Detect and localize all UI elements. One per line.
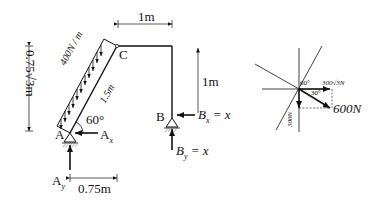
angle-60-label: 60° <box>300 80 310 87</box>
vertical-component-label: 300N <box>287 112 294 127</box>
Bx-label: Bx = x <box>198 108 231 125</box>
Ay-label: Ay <box>52 174 65 191</box>
By-label: By = x <box>176 144 209 161</box>
horizontal-component-label: 300√3N <box>322 80 345 87</box>
dimension-right-label: 1m <box>202 75 219 88</box>
point-C-label: C <box>119 48 128 61</box>
resultant-label: 600N <box>333 102 361 115</box>
dimension-left-label: 0.75√3m <box>24 50 37 97</box>
angle-A-label: 60° <box>86 113 104 126</box>
dimension-top-label: 1m <box>138 10 155 23</box>
Ax-label: Ax <box>100 128 113 145</box>
point-B-label: B <box>156 110 165 123</box>
dimension-bottom-label: 0.75m <box>78 182 111 195</box>
angle-arc-A <box>76 122 83 133</box>
pin-support-A <box>62 133 78 147</box>
point-A-label: A <box>55 128 64 141</box>
angle-30-label: 30° <box>311 90 321 97</box>
